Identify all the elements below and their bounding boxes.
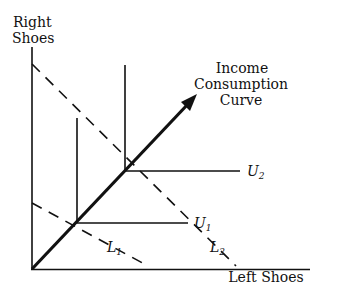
u1-label: U1 [194,215,212,233]
l1-label: L1 [106,239,122,257]
u2-label: U2 [247,163,265,181]
budget-line-l1 [32,203,148,266]
x-axis-label: Left Shoes [228,269,303,285]
l2-label: L2 [209,239,225,257]
diagram-canvas: Right Shoes Income Consumption Curve Lef… [0,0,346,302]
y-axis-label-line2: Shoes [12,30,55,46]
curve-label-line3: Curve [220,92,263,108]
y-axis-label-line1: Right [13,14,52,30]
curve-label-line2: Consumption [194,76,288,92]
curve-label-line1: Income [216,60,268,76]
